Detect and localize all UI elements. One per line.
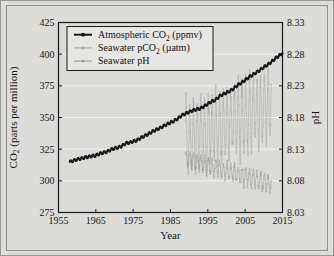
data-point (225, 154, 226, 155)
data-point (261, 188, 262, 189)
data-point (188, 164, 189, 165)
data-point (266, 146, 267, 147)
data-point (229, 127, 230, 128)
data-point (258, 185, 259, 186)
data-point (256, 94, 257, 95)
data-point (251, 153, 252, 154)
data-point (192, 124, 193, 125)
data-point (253, 80, 254, 81)
data-point (243, 153, 244, 154)
data-point (234, 95, 235, 96)
data-point (227, 112, 228, 113)
data-point (271, 84, 272, 85)
legend-swatch-marker (81, 33, 85, 37)
data-point (229, 176, 230, 177)
data-point (203, 169, 204, 170)
data-point (215, 161, 216, 162)
data-point (227, 160, 228, 161)
data-point (212, 95, 213, 96)
data-point (226, 167, 227, 168)
data-point (213, 141, 214, 142)
data-point (199, 165, 200, 166)
data-point (222, 146, 223, 147)
data-point (207, 169, 208, 170)
data-point (211, 160, 212, 161)
data-point (267, 175, 268, 176)
data-point (215, 85, 216, 86)
data-point (223, 167, 224, 168)
data-point (185, 121, 186, 122)
data-point (243, 181, 244, 182)
legend-swatch-marker (82, 46, 85, 49)
data-point (213, 149, 214, 150)
data-point (205, 160, 206, 161)
data-point (255, 188, 256, 189)
data-point (256, 79, 257, 80)
data-point (228, 147, 229, 148)
data-point (207, 147, 208, 148)
data-point (194, 130, 195, 131)
data-point (254, 183, 255, 184)
data-point (190, 155, 191, 156)
figure-outer-frame: 1955196519751985199520052015275300325350… (0, 0, 334, 256)
data-point (257, 102, 258, 103)
data-point (245, 104, 246, 105)
data-point (219, 91, 220, 92)
data-point (204, 154, 205, 155)
data-point (210, 150, 211, 151)
data-point (262, 142, 263, 143)
data-point (204, 100, 205, 101)
data-point (212, 165, 213, 166)
y-tick-label-right: 8.18 (287, 112, 305, 123)
data-point (209, 142, 210, 143)
data-point (271, 180, 272, 181)
data-point (251, 180, 252, 181)
data-point (251, 188, 252, 189)
data-point (205, 156, 206, 157)
data-point (187, 167, 188, 168)
data-point (231, 168, 232, 169)
data-point (192, 155, 193, 156)
data-point (246, 141, 247, 142)
data-point (259, 117, 260, 118)
data-point (203, 124, 204, 125)
data-point (213, 170, 214, 171)
y-tick-label-left: 325 (40, 144, 55, 155)
data-point (217, 149, 218, 150)
data-point (234, 162, 235, 163)
data-point (256, 169, 257, 170)
data-point (226, 107, 227, 108)
data-point (268, 83, 269, 84)
data-point (208, 163, 209, 164)
data-point (211, 111, 212, 112)
data-point (225, 144, 226, 145)
data-point (261, 178, 262, 179)
data-point (221, 175, 222, 176)
data-point (200, 118, 201, 119)
data-point (228, 160, 229, 161)
data-point (253, 168, 254, 169)
data-point (266, 118, 267, 119)
data-point (239, 180, 240, 181)
x-tick-label: 1985 (161, 215, 181, 226)
x-axis-title: Year (160, 229, 181, 241)
data-point (252, 175, 253, 176)
data-point (255, 136, 256, 137)
data-point (199, 172, 200, 173)
data-point (220, 173, 221, 174)
data-point (235, 170, 236, 171)
data-point (228, 176, 229, 177)
data-point (185, 153, 186, 154)
data-point (246, 174, 247, 175)
data-point (208, 111, 209, 112)
data-point (268, 177, 269, 178)
data-point (269, 125, 270, 126)
data-point (251, 117, 252, 118)
data-point (197, 113, 198, 114)
data-point (185, 151, 186, 152)
data-point (217, 172, 218, 173)
chart-canvas: 1955196519751985199520052015275300325350… (1, 1, 334, 256)
data-point (264, 85, 265, 86)
data-point (233, 166, 234, 167)
y-tick-label-left: 300 (40, 175, 55, 186)
